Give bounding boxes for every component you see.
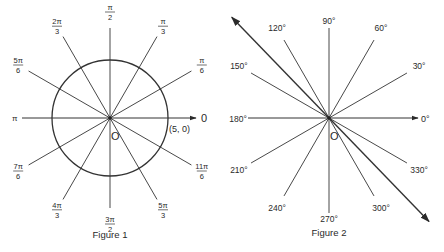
degree-label-60: 60° <box>375 23 388 33</box>
fraction-label-330: 11π6 <box>195 162 208 181</box>
ray-30 <box>329 73 407 118</box>
figure-caption: Figure 1 <box>93 229 128 240</box>
ray-330 <box>329 118 407 163</box>
double-arrow-line <box>232 17 429 221</box>
degree-label-210: 210° <box>230 165 248 175</box>
fraction-label-150: 5π6 <box>13 56 23 75</box>
origin-label: O <box>330 130 339 142</box>
svg-text:6: 6 <box>16 172 20 181</box>
svg-text:3: 3 <box>161 211 165 220</box>
svg-text:11π: 11π <box>195 162 208 171</box>
ray-150 <box>251 73 329 118</box>
degree-label-150: 150° <box>230 61 248 71</box>
svg-text:4π: 4π <box>52 201 61 210</box>
ray-30 <box>110 71 191 118</box>
ray-120 <box>63 37 110 118</box>
zero-label: 0° <box>421 114 430 124</box>
degree-label-120: 120° <box>268 23 286 33</box>
svg-text:3π: 3π <box>105 215 114 224</box>
zero-label: 0 <box>201 112 207 124</box>
degree-label-270: 270° <box>320 214 338 224</box>
degree-label-300: 300° <box>372 203 390 213</box>
svg-text:2: 2 <box>108 13 112 22</box>
origin-dot <box>108 116 112 120</box>
ray-150 <box>29 71 110 118</box>
fraction-label-240: 4π3 <box>52 201 62 220</box>
origin-label: O <box>111 130 120 142</box>
point-label: (5, 0) <box>169 124 190 134</box>
svg-text:5π: 5π <box>14 56 23 65</box>
svg-text:6: 6 <box>16 66 20 75</box>
degree-label-240: 240° <box>268 203 286 213</box>
svg-text:π: π <box>160 17 165 26</box>
degree-label-180: 180° <box>229 114 247 124</box>
polar-angle-diagrams: O (5, 0) 0 π π6π3π22π35π67π64π33π25π311π… <box>0 0 444 252</box>
fraction-label-120: 2π3 <box>52 17 62 36</box>
degree-label-330: 330° <box>410 165 428 175</box>
figure-2: O 0° 30°60°90°120°150°180°210°240°270°30… <box>229 16 430 238</box>
fraction-label-210: 7π6 <box>13 162 23 181</box>
ray-210 <box>29 118 110 165</box>
fraction-label-60: π3 <box>158 17 168 36</box>
degree-label-30: 30° <box>413 61 426 71</box>
origin-dot <box>327 116 331 120</box>
fraction-label-300: 5π3 <box>158 201 168 220</box>
ray-240 <box>63 118 110 199</box>
svg-text:2π: 2π <box>52 17 61 26</box>
angle-labels: 30°60°90°120°150°180°210°240°270°300°330… <box>229 16 428 224</box>
figure-1: O (5, 0) 0 π π6π3π22π35π67π64π33π25π311π… <box>12 3 208 240</box>
svg-text:5π: 5π <box>158 201 167 210</box>
svg-text:3: 3 <box>161 27 165 36</box>
svg-text:7π: 7π <box>14 162 23 171</box>
ray-60 <box>329 40 374 118</box>
fraction-label-90: π2 <box>105 3 115 22</box>
ray-240 <box>284 118 329 196</box>
pi-label: π <box>12 114 18 123</box>
svg-text:π: π <box>199 56 204 65</box>
fraction-label-30: π6 <box>197 56 207 75</box>
svg-text:6: 6 <box>200 66 204 75</box>
degree-label-90: 90° <box>323 16 336 26</box>
angle-rays <box>251 28 407 213</box>
figure-caption: Figure 2 <box>312 227 347 238</box>
svg-text:6: 6 <box>200 172 204 181</box>
ray-210 <box>251 118 329 163</box>
svg-text:3: 3 <box>55 211 59 220</box>
svg-text:π: π <box>107 3 112 12</box>
svg-text:3: 3 <box>55 27 59 36</box>
ray-60 <box>110 37 157 118</box>
